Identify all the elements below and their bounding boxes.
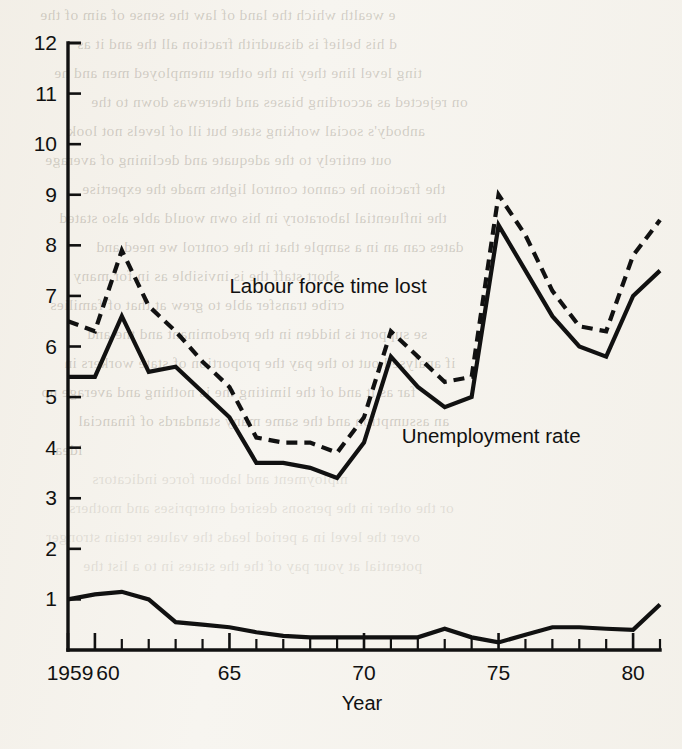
x-tick-label-1980: 80 — [621, 661, 644, 684]
series-line-labour-force-time-lost — [68, 195, 660, 453]
y-tick-label-5: 5 — [45, 385, 57, 408]
x-tick-label-1960: 60 — [96, 661, 119, 684]
y-tick-label-6: 6 — [45, 335, 57, 358]
x-tick-label-1970: 70 — [352, 661, 375, 684]
x-tick-label-1975: 75 — [487, 661, 510, 684]
line-chart-svg: 123456789101112 19596065707580 Labour fo… — [0, 0, 682, 749]
chart-figure: 123456789101112 19596065707580 Labour fo… — [0, 0, 682, 749]
data-series-lines — [68, 195, 660, 643]
y-tick-label-10: 10 — [34, 132, 57, 155]
y-tick-label-11: 11 — [35, 82, 57, 105]
y-tick-label-2: 2 — [45, 537, 57, 560]
y-tick-label-1: 1 — [45, 587, 57, 610]
x-axis-tick-labels: 19596065707580 — [47, 661, 645, 684]
y-tick-label-4: 4 — [45, 436, 57, 459]
y-axis-tick-labels: 123456789101112 — [34, 31, 58, 610]
series-annotations: Labour force time lostUnemployment rate — [229, 274, 580, 446]
y-tick-label-7: 7 — [45, 284, 57, 307]
y-tick-label-9: 9 — [45, 183, 57, 206]
x-tick-label-1965: 65 — [218, 661, 241, 684]
x-tick-label-1959: 1959 — [47, 661, 94, 684]
y-tick-label-3: 3 — [45, 486, 57, 509]
series-annotation-1: Unemployment rate — [402, 424, 581, 447]
series-annotation-0: Labour force time lost — [229, 274, 426, 297]
x-axis-title: Year — [342, 692, 383, 714]
y-tick-label-12: 12 — [34, 31, 57, 54]
y-tick-label-8: 8 — [45, 233, 57, 256]
